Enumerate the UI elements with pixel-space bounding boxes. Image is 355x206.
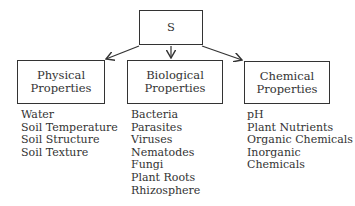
list-item: Soil Texture [21,147,118,160]
biological-title-line2: Properties [145,82,206,95]
list-item: Rhizosphere [131,185,200,198]
list-item: pH [247,109,355,122]
root-node: S [139,10,203,45]
chemical-items-list: pH Plant Nutrients Organic Chemicals Ino… [247,109,355,172]
chemical-title-line1: Chemical [257,70,318,83]
root-label: S [167,21,175,34]
physical-title-line2: Properties [31,82,92,95]
biological-properties-node: Biological Properties [127,60,223,104]
physical-properties-node: Physical Properties [17,60,105,104]
list-item: Bacteria [131,109,200,122]
list-item: Organic Chemicals [247,134,355,147]
list-item: Water [21,109,118,122]
list-item: Soil Structure [21,134,118,147]
list-item: Inorganic Chemicals [247,147,355,172]
list-item: Viruses [131,134,200,147]
physical-items-list: Water Soil Temperature Soil Structure So… [21,109,118,159]
biological-items-list: Bacteria Parasites Viruses Nematodes Fun… [131,109,200,197]
chemical-properties-node: Chemical Properties [244,61,330,104]
chemical-title-line2: Properties [257,83,318,96]
list-item: Plant Roots [131,172,200,185]
